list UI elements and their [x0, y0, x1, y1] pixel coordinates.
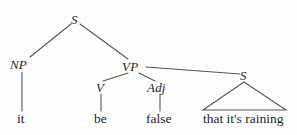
- edge-vp-to-v: [103, 73, 128, 81]
- node-adj: Adj: [147, 81, 166, 94]
- edge-vp-to-embedded-s: [146, 67, 240, 74]
- embedded-clause-triangle: [203, 82, 286, 110]
- terminal-false: false: [146, 112, 171, 126]
- node-embedded-s: S: [240, 69, 247, 82]
- terminal-it: it: [17, 112, 25, 126]
- edge-s-to-np: [30, 24, 71, 57]
- syntax-tree-figure: S NP VP V Adj S it be false that it's ra…: [0, 0, 297, 135]
- terminal-be: be: [94, 112, 107, 126]
- edge-s-to-vp: [80, 24, 128, 59]
- node-np: NP: [10, 58, 27, 71]
- node-v: V: [96, 81, 104, 94]
- node-vp: VP: [122, 60, 138, 73]
- terminal-embedded-clause: that it's raining: [203, 112, 283, 126]
- node-root-s: S: [71, 13, 78, 26]
